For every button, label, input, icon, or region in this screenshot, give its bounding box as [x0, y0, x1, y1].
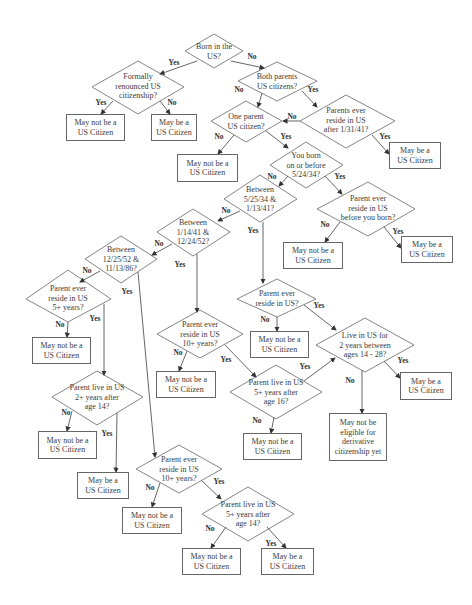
edge-label-no: No [247, 52, 256, 61]
edge-label-yes: Yes [248, 226, 259, 235]
outcome-box: May be a US Citizen [400, 372, 452, 400]
edge-label-no: No [205, 524, 214, 533]
edge-label-yes: Yes [308, 85, 319, 94]
decision-parent-5-years-after-16: Parent live in US 5+ years after age 16? [249, 378, 304, 407]
outcome-box: May not be a US Citizen [283, 242, 343, 269]
outcome-box: May not be a US Citizen [182, 548, 241, 575]
outcome-box: May be a US Citizen [77, 472, 129, 499]
flowchart-canvas: Born in the US? Formally renounced US ci… [0, 0, 472, 605]
decision-parent-5-years-after-14: Parent live in US 5+ years after age 14? [221, 500, 276, 529]
edge-label-yes: Yes [221, 355, 232, 364]
decision-parents-reside-after-1941: Parents ever reside in US after 1/31/41? [324, 106, 369, 135]
outcome-box-not-eligible: May not be eligible for derivative citiz… [329, 413, 387, 461]
edge-label-no: No [252, 416, 261, 425]
edge-label-yes: Yes [335, 172, 346, 181]
outcome-box: May be a US Citizen [261, 548, 314, 575]
edge-label-yes: Yes [169, 58, 180, 67]
decision-formally-renounced: Formally renounced US citizenship? [115, 72, 161, 101]
decision-parent-reside-before-birth: Parent ever reside in US before you born… [341, 194, 396, 223]
edge-label-yes: Yes [96, 98, 107, 107]
outcome-box: May be a US Citizen [401, 236, 453, 263]
edge-label-no: No [287, 112, 296, 121]
decision-live-2-years-14-28: Live in US for 2 years between ages 14 -… [339, 331, 391, 360]
edge-label-yes: Yes [214, 477, 225, 486]
edge-label-no: No [55, 320, 64, 329]
edge-label-yes: Yes [398, 356, 409, 365]
outcome-box: May not be a US Citizen [177, 154, 238, 182]
edge-d3-d5 [258, 93, 262, 107]
edge-label-no: No [145, 483, 154, 492]
edge-label-no: No [260, 315, 269, 324]
outcome-box: May not be a US Citizen [250, 331, 309, 358]
edge-label-no: No [221, 206, 230, 215]
edge-label-yes: Yes [175, 260, 186, 269]
edge-d15-b12 [271, 417, 274, 433]
decision-between-1941-1952: Between 1/14/41 & 12/24/52? [177, 218, 210, 247]
decision-both-parents-citizens: Both parents US citizens? [257, 72, 298, 91]
decision-born-in-us: Born in the US? [196, 42, 232, 61]
outcome-box: May not be a US Citizen [243, 433, 302, 460]
edge-label-yes: Yes [266, 539, 277, 548]
edge-d11-b7 [67, 322, 68, 337]
edge-d10-d17 [138, 272, 155, 457]
edge-label-yes: Yes [90, 314, 101, 323]
decision-parent-ever-reside: Parent ever reside in US? [255, 289, 298, 308]
edge-label-no: No [167, 98, 176, 107]
decision-parent-2-years-after-14: Parent live in US 2+ years after age 14? [70, 383, 125, 412]
edge-label-no: No [320, 220, 329, 229]
edge-label-no: No [234, 85, 243, 94]
edge-label-no: No [345, 376, 354, 385]
edge-label-no: No [61, 408, 70, 417]
outcome-box: May be a US Citizen [389, 142, 441, 169]
outcome-box: May not be a US Citizen [38, 431, 97, 459]
decision-parent-reside-10-years-lower: Parent ever reside in US 10+ years? [159, 455, 199, 484]
edge-label-no: No [154, 239, 163, 248]
decision-parent-reside-10-years: Parent ever reside in US 10+ years? [180, 320, 220, 349]
edge-label-yes: Yes [393, 227, 404, 236]
edge-label-yes: Yes [380, 132, 391, 141]
outcome-box: May not be a US Citizen [156, 371, 216, 398]
outcome-box: May not be a US Citizen [32, 337, 91, 364]
edge-label-yes: Yes [102, 429, 113, 438]
outcome-box: May not be a US Citizen [66, 114, 125, 141]
decision-one-parent-citizen: One parent US citizen? [227, 112, 264, 131]
edge-d1-d3 [231, 61, 264, 68]
decision-between-1952-1986: Between 12/25/52 & 11/13/86? [103, 245, 140, 274]
edge-label-no: No [82, 266, 91, 275]
decision-born-before-1934: You born on or before 5/24/34? [286, 151, 325, 180]
edge-label-no: No [173, 348, 182, 357]
decision-parent-reside-5-years: Parent ever reside in US 5+ years? [48, 284, 88, 313]
edge-label-yes: Yes [281, 132, 292, 141]
outcome-box: May not be a US Citizen [122, 507, 182, 534]
outcome-box: May be a US Citizen [151, 114, 197, 141]
edge-label-yes: Yes [300, 362, 311, 371]
edge-label-no: No [214, 132, 223, 141]
edge-label-yes: Yes [122, 287, 133, 296]
decision-between-1934-1941: Between 5/25/34 & 1/13/41? [244, 185, 277, 214]
edge-label-no: No [267, 172, 276, 181]
edge-label-yes: Yes [314, 301, 325, 310]
edge-d12-b9 [116, 413, 117, 472]
